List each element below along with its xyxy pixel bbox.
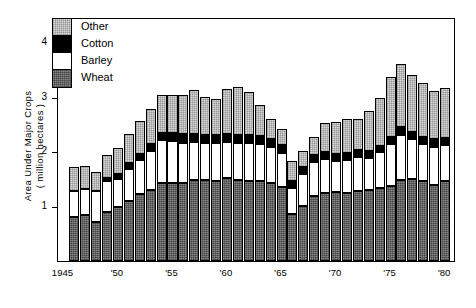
bar-segment-wheat — [277, 187, 287, 261]
bar-segment-other — [396, 64, 406, 128]
y-tick-label: 1 — [25, 200, 47, 211]
bar-segment-wheat — [298, 206, 308, 261]
bar-segment-other — [418, 83, 428, 137]
bar-segment-barley — [364, 158, 374, 190]
bar-segment-barley — [407, 139, 417, 178]
bar-1952 — [135, 17, 145, 261]
bar-segment-wheat — [309, 196, 319, 261]
bar-segment-wheat — [287, 214, 297, 261]
bar-1961 — [233, 17, 243, 261]
bar-1954 — [157, 17, 167, 261]
bar-segment-cotton — [200, 135, 210, 143]
bar-segment-wheat — [200, 180, 210, 261]
bar-segment-cotton — [277, 145, 287, 153]
y-tick-mark — [52, 43, 57, 44]
bar-segment-cotton — [157, 133, 167, 141]
bar-segment-cotton — [407, 132, 417, 139]
bars-container — [58, 19, 454, 261]
bar-1969 — [320, 17, 330, 261]
bar-1959 — [211, 17, 221, 261]
bar-1956 — [178, 17, 188, 261]
bar-segment-barley — [135, 160, 145, 194]
bar-1955 — [167, 17, 177, 261]
bar-1965 — [277, 17, 287, 261]
bar-1978 — [418, 17, 428, 261]
bar-segment-wheat — [167, 183, 177, 261]
bar-segment-wheat — [80, 215, 90, 261]
bar-segment-barley — [211, 143, 221, 181]
bar-segment-cotton — [146, 144, 156, 151]
bar-segment-cotton — [102, 178, 112, 182]
bar-segment-other — [91, 172, 101, 192]
bar-segment-cotton — [189, 134, 199, 142]
y-tick-mark — [52, 152, 57, 153]
bar-segment-cotton — [233, 135, 243, 143]
bar-segment-barley — [396, 135, 406, 180]
bar-segment-other — [429, 91, 439, 139]
x-tick-label: '60 — [206, 267, 246, 278]
bar-1953 — [146, 17, 156, 261]
bar-1980 — [440, 17, 450, 261]
bar-1957 — [189, 17, 199, 261]
bar-segment-cotton — [167, 133, 177, 141]
bar-segment-barley — [353, 157, 363, 191]
bar-segment-other — [69, 167, 79, 191]
bar-segment-barley — [102, 181, 112, 211]
bar-segment-cotton — [135, 154, 145, 161]
cotton-swatch — [53, 36, 71, 53]
bar-segment-cotton — [287, 181, 297, 188]
bar-segment-barley — [178, 143, 188, 184]
bar-1968 — [309, 17, 319, 261]
wheat-swatch — [53, 70, 71, 87]
bar-segment-cotton — [364, 151, 374, 158]
bar-segment-cotton — [342, 153, 352, 160]
bar-1967 — [298, 17, 308, 261]
bar-segment-barley — [277, 153, 287, 187]
x-tick-label: 1945 — [42, 267, 82, 278]
bar-segment-barley — [124, 169, 134, 201]
y-tick-label: 3 — [25, 91, 47, 102]
bar-1979 — [429, 17, 439, 261]
bar-segment-barley — [287, 188, 297, 214]
bar-segment-other — [364, 111, 374, 150]
bar-segment-other — [80, 166, 90, 189]
bar-segment-other — [440, 88, 450, 138]
x-tick-label: '50 — [97, 267, 137, 278]
bar-segment-barley — [375, 152, 385, 187]
bar-segment-wheat — [189, 180, 199, 261]
legend-swatch-column — [52, 18, 72, 88]
bar-segment-barley — [440, 145, 450, 181]
bar-segment-wheat — [266, 183, 276, 261]
legend-label-column: Other Cotton Barley Wheat — [81, 18, 113, 86]
bar-segment-cotton — [353, 150, 363, 158]
bar-1951 — [124, 17, 134, 261]
bar-segment-barley — [309, 162, 319, 196]
bar-segment-barley — [418, 144, 428, 181]
bar-segment-barley — [298, 174, 308, 206]
stacked-bar-chart-figure: Area Under Major Crops ( million hectare… — [0, 0, 476, 308]
bar-segment-other — [211, 99, 221, 135]
bar-segment-wheat — [244, 181, 254, 261]
bar-segment-other — [320, 123, 330, 152]
bar-segment-wheat — [233, 180, 243, 261]
bar-segment-cotton — [113, 174, 123, 178]
bar-segment-cotton — [418, 137, 428, 144]
bar-segment-other — [277, 129, 287, 145]
bar-1964 — [266, 17, 276, 261]
y-tick-label: 2 — [25, 145, 47, 156]
bar-segment-other — [233, 87, 243, 135]
bar-segment-wheat — [211, 181, 221, 261]
bar-segment-wheat — [157, 183, 167, 261]
bar-segment-other — [146, 109, 156, 144]
bar-segment-barley — [69, 191, 79, 217]
bar-segment-wheat — [429, 185, 439, 261]
bar-segment-other — [342, 119, 352, 153]
x-tick-label: '70 — [315, 267, 355, 278]
bar-segment-barley — [244, 143, 254, 181]
bar-segment-other — [331, 122, 341, 154]
plot-area — [57, 18, 455, 262]
bar-segment-other — [309, 137, 319, 156]
bar-segment-cotton — [255, 136, 265, 144]
bar-segment-barley — [167, 141, 177, 183]
bar-segment-other — [375, 98, 385, 146]
